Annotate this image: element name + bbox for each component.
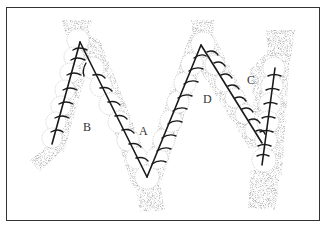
label-c: C <box>247 74 255 86</box>
illustration <box>0 0 327 230</box>
label-b: B <box>83 121 91 133</box>
label-a: A <box>139 125 148 137</box>
label-d: D <box>203 93 212 105</box>
